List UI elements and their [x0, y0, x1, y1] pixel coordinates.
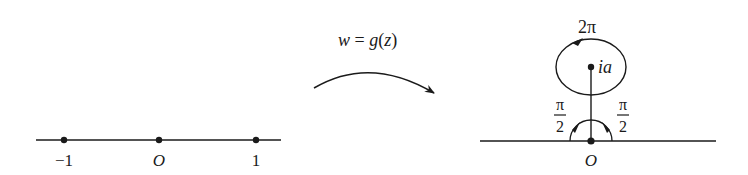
mapping-label: w = g(z) — [338, 30, 397, 51]
conformal-map-diagram: −1 O 1 w = g(z) 2π ia O π 2 π — [0, 0, 748, 175]
point-origin — [156, 137, 162, 143]
mapping-arrow-group: w = g(z) — [314, 30, 434, 93]
point-minus-one — [61, 137, 67, 143]
label-minus-one: −1 — [55, 151, 73, 170]
label-one: 1 — [252, 151, 261, 170]
origin-label-w: O — [585, 151, 597, 170]
w-plane: 2π ia O π 2 π 2 — [480, 17, 716, 170]
z-plane: −1 O 1 — [36, 137, 281, 170]
ia-label: ia — [598, 57, 612, 77]
label-origin-z: O — [153, 151, 165, 170]
point-one — [253, 137, 259, 143]
right-angle-denominator: 2 — [619, 118, 627, 135]
diagram-svg: −1 O 1 w = g(z) 2π ia O π 2 π — [0, 0, 748, 175]
left-angle-denominator: 2 — [556, 118, 564, 135]
left-angle-fraction: π 2 — [554, 96, 566, 135]
right-angle-numerator: π — [619, 96, 627, 113]
mapping-arrow — [314, 73, 434, 93]
left-angle-arrowhead-icon — [572, 122, 580, 133]
left-angle-numerator: π — [556, 96, 564, 113]
point-origin-w — [587, 137, 594, 144]
loop-angle-label: 2π — [578, 17, 596, 37]
right-angle-arrowhead-icon — [602, 122, 610, 133]
point-ia — [588, 64, 594, 70]
right-angle-fraction: π 2 — [617, 96, 629, 135]
